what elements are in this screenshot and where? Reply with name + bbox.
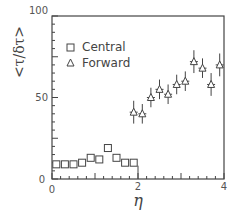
x-tick-label: 0 xyxy=(49,184,55,195)
central-square-marker xyxy=(130,159,137,166)
y-tick-label: 50 xyxy=(35,92,48,103)
y-axis-label: <τ/δτ> xyxy=(11,26,27,78)
plot-frame xyxy=(52,16,224,179)
central-square-marker xyxy=(79,159,86,166)
legend-triangle-icon xyxy=(67,59,74,66)
central-square-marker xyxy=(113,154,120,161)
y-tick-label: 100 xyxy=(29,5,48,16)
central-square-marker xyxy=(122,159,129,166)
legend-square-icon xyxy=(67,44,74,51)
x-tick-label: 4 xyxy=(221,181,227,192)
central-square-marker xyxy=(96,156,103,163)
central-square-marker xyxy=(70,161,77,168)
legend-label-central: Central xyxy=(82,40,126,54)
central-square-marker xyxy=(53,161,60,168)
central-square-marker xyxy=(61,161,68,168)
chart: 100 50 0 0 2 4 η <τ/δτ> Central Forward xyxy=(0,0,237,214)
central-square-marker xyxy=(87,154,94,161)
central-square-marker xyxy=(104,145,111,152)
series-forward xyxy=(130,50,224,123)
y-tick-label: 0 xyxy=(39,174,45,185)
legend-label-forward: Forward xyxy=(82,56,130,70)
x-axis-label: η xyxy=(133,191,143,210)
axis-ticks xyxy=(52,16,224,179)
legend: Central Forward xyxy=(67,40,130,70)
